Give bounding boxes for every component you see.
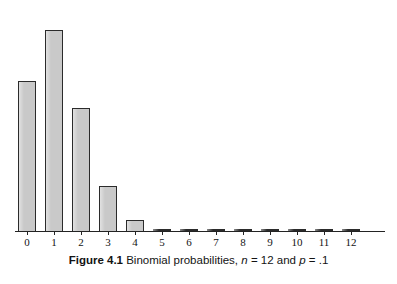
bar: [126, 220, 144, 231]
x-axis-tick-label: 10: [284, 236, 310, 249]
figure-caption: Figure 4.1 Binomial probabilities, n = 1…: [0, 254, 397, 266]
bar: [99, 186, 117, 231]
x-axis-tick-label: 4: [122, 236, 148, 249]
x-axis-line: [15, 231, 385, 232]
figure-number: Figure 4.1: [69, 254, 123, 266]
x-axis-tick-label: 7: [203, 236, 229, 249]
x-axis-tick-label: 8: [230, 236, 256, 249]
x-axis-tick-label: 11: [311, 236, 337, 249]
bar: [72, 108, 90, 231]
x-axis-tick-label: 5: [149, 236, 175, 249]
x-axis-tick: [270, 232, 271, 235]
x-axis-tick-label: 3: [95, 236, 121, 249]
caption-equation-n: = 12 and: [251, 254, 296, 266]
x-axis-tick: [81, 232, 82, 235]
x-axis-tick: [297, 232, 298, 235]
caption-body: Binomial probabilities,: [126, 254, 238, 266]
x-axis-tick-label: 6: [176, 236, 202, 249]
x-axis-tick-label: 12: [338, 236, 364, 249]
x-axis-tick: [189, 232, 190, 235]
x-axis-tick: [216, 232, 217, 235]
caption-variable-n: n: [241, 254, 247, 266]
bar-chart-plot-area: 0123456789101112: [0, 0, 397, 240]
x-axis-tick-label: 9: [257, 236, 283, 249]
x-axis-tick: [135, 232, 136, 235]
caption-variable-p: p: [299, 254, 305, 266]
x-axis-tick-label: 2: [68, 236, 94, 249]
figure-container: 0123456789101112 Figure 4.1 Binomial pro…: [0, 0, 397, 284]
bar: [18, 81, 36, 231]
x-axis-tick: [108, 232, 109, 235]
x-axis-tick: [351, 232, 352, 235]
x-axis-tick: [243, 232, 244, 235]
x-axis-tick-label: 0: [14, 236, 40, 249]
x-axis-tick: [27, 232, 28, 235]
x-axis-tick: [54, 232, 55, 235]
x-axis-tick-label: 1: [41, 236, 67, 249]
bar: [45, 30, 63, 231]
x-axis-tick: [162, 232, 163, 235]
x-axis-tick: [324, 232, 325, 235]
caption-equation-p: = .1: [309, 254, 329, 266]
